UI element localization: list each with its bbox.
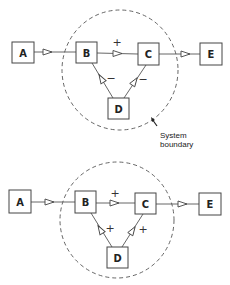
arrow-a-b-icon	[45, 199, 54, 205]
sign-d-c: +	[138, 223, 147, 236]
node-label: C	[142, 198, 149, 211]
node-label: D	[113, 252, 121, 265]
arrow-b-c-icon	[113, 51, 122, 57]
arrow-c-e-icon	[178, 201, 187, 207]
node-c: C	[135, 193, 156, 214]
node-c: C	[138, 43, 159, 65]
node-label: D	[114, 103, 122, 116]
sign-b-c: +	[112, 36, 121, 49]
node-d: D	[107, 247, 128, 268]
node-label: E	[208, 48, 215, 61]
node-label: A	[16, 196, 24, 209]
diagram-bottom: + + + A B C D E	[9, 162, 221, 278]
sign-d-b: +	[105, 222, 114, 235]
boundary-label-line2: boundary	[160, 140, 193, 149]
sign-d-b: −	[106, 72, 115, 85]
node-label: B	[83, 47, 91, 60]
sign-b-c: +	[110, 187, 119, 200]
node-label: B	[82, 196, 90, 209]
arrow-d-c-icon	[128, 225, 138, 236]
arrow-c-e-icon	[181, 51, 190, 57]
node-d: D	[108, 98, 129, 119]
node-label: E	[207, 198, 214, 211]
node-b: B	[76, 42, 97, 63]
boundary-label-line1: System	[160, 131, 187, 140]
node-label: C	[145, 48, 152, 61]
arrow-a-b-icon	[43, 49, 52, 55]
node-e: E	[200, 43, 222, 65]
node-a: A	[12, 42, 34, 63]
boundary-pointer	[151, 117, 157, 126]
sign-d-c: −	[138, 73, 147, 86]
system-boundary-diagrams: + − − A B C D E System boundary	[0, 0, 230, 285]
arrow-b-c-icon	[110, 200, 119, 206]
node-b: B	[75, 191, 96, 213]
node-e: E	[199, 193, 221, 215]
diagram-top: + − − A B C D E System boundary	[12, 10, 222, 149]
arrow-d-b-icon	[96, 73, 106, 84]
node-a: A	[9, 190, 31, 213]
node-label: A	[19, 47, 27, 60]
